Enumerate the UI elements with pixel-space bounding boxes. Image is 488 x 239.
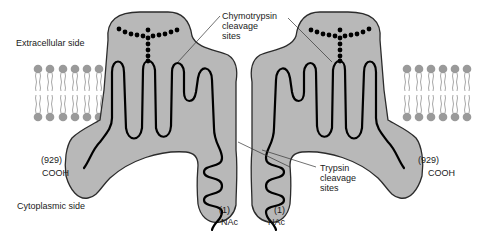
right-c-terminus: COOH [428, 168, 455, 178]
trypsin-label-line2: cleavage [320, 173, 356, 183]
left-n-terminus: NAc [221, 217, 239, 227]
right-c-terminus-number: (929) [418, 155, 439, 165]
chymotrypsin-label-line3: sites [222, 31, 241, 41]
left-c-terminus-number: (929) [41, 155, 62, 165]
right-n-terminus-number: (1) [274, 205, 285, 215]
lipid-bilayer-right [403, 65, 472, 122]
trypsin-label-line3: sites [320, 183, 339, 193]
left-c-terminus: COOH [42, 168, 69, 178]
protein-right [251, 12, 423, 230]
lipid-bilayer-left [34, 65, 104, 122]
extracellular-label: Extracellular side [16, 38, 85, 48]
trypsin-label-line1: Trypsin [320, 163, 349, 173]
chymotrypsin-label-line1: Chymotrypsin [222, 11, 277, 21]
chymotrypsin-label-line2: cleavage [222, 21, 258, 31]
right-n-terminus: NAc [268, 217, 286, 227]
protein-left [65, 12, 237, 230]
membrane-protein-diagram: Extracellular side Cytoplasmic side Chym… [0, 0, 488, 239]
left-n-terminus-number: (1) [219, 205, 230, 215]
cytoplasmic-label: Cytoplasmic side [17, 201, 85, 211]
